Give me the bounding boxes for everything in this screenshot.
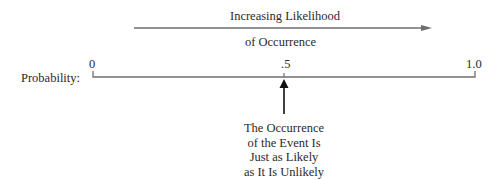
pointer-caption: The Occurrence of the Event Is Just as L… bbox=[234, 121, 334, 179]
trend-arrow bbox=[134, 25, 432, 31]
arrowhead-up-icon bbox=[280, 79, 289, 88]
tick-label-1: 1.0 bbox=[466, 57, 482, 71]
tick-label-0: 0 bbox=[89, 57, 95, 71]
caption-line: The Occurrence bbox=[234, 121, 334, 136]
arrowhead-right-icon bbox=[421, 25, 432, 31]
caption-line: as It Is Unlikely bbox=[234, 165, 334, 180]
caption-line: of the Event Is bbox=[234, 136, 334, 151]
tick-label-half: .5 bbox=[281, 57, 290, 71]
trend-label-line2: of Occurrence bbox=[245, 35, 316, 49]
scale-label: Probability: bbox=[21, 71, 80, 85]
caption-line: Just as Likely bbox=[234, 150, 334, 165]
pointer-arrow bbox=[280, 79, 289, 114]
probability-scale-line bbox=[93, 71, 475, 77]
trend-label-line1: Increasing Likelihood bbox=[230, 9, 340, 23]
